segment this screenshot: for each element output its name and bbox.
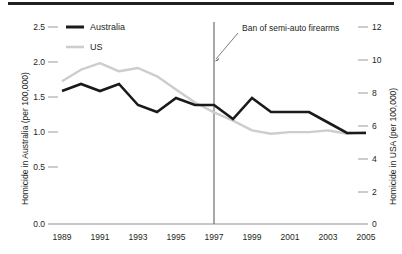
x-tick-label-1993: 1993 [129,232,148,242]
left-axis-ticks [48,27,58,167]
chart-canvas: 2.5 2.0 1.5 1.0 0.5 0.0 Homicide in Aust… [0,0,402,254]
x-tick-label-1997: 1997 [205,232,224,242]
right-axis-tick-labels: 12 10 8 6 4 2 0 [372,22,382,229]
left-tick-label-2.0: 2.0 [33,57,45,67]
chart-legend: Australia US [66,22,125,52]
right-tick-label-12: 12 [372,22,382,32]
left-axis-title: Homicide in Australia (per 100,000) [20,72,30,205]
x-tick-label-2005: 2005 [357,232,376,242]
x-tick-label-1995: 1995 [167,232,186,242]
legend-label-australia: Australia [90,22,125,32]
legend-label-us: US [90,42,103,52]
x-tick-label-2003: 2003 [319,232,338,242]
right-tick-label-6: 6 [372,121,377,131]
right-tick-label-4: 4 [372,154,377,164]
right-axis-ticks [358,27,368,192]
right-axis-title: Homicide in USA (per 100,000) [388,88,398,205]
right-tick-label-0: 0 [372,219,377,229]
left-tick-label-0.5: 0.5 [33,162,45,172]
x-tick-label-1989: 1989 [53,232,72,242]
right-tick-label-8: 8 [372,88,377,98]
x-tick-label-2001: 2001 [281,232,300,242]
x-tick-label-1991: 1991 [91,232,110,242]
x-tick-label-1999: 1999 [243,232,262,242]
right-tick-label-10: 10 [372,55,382,65]
left-tick-label-0.0: 0.0 [33,219,45,229]
right-tick-label-2: 2 [372,187,377,197]
left-tick-label-2.5: 2.5 [33,22,45,32]
homicide-rate-line-chart: 2.5 2.0 1.5 1.0 0.5 0.0 Homicide in Aust… [0,0,402,254]
ban-event-arrow-icon [215,33,239,62]
left-axis-tick-labels: 2.5 2.0 1.5 1.0 0.5 0.0 [33,22,45,229]
x-axis-tick-labels: 1989 1991 1993 1995 1997 1999 2001 2003 … [53,232,376,242]
left-tick-label-1.5: 1.5 [33,92,45,102]
ban-event-annotation-label: Ban of semi-auto firearms [242,23,339,33]
left-tick-label-1.0: 1.0 [33,127,45,137]
